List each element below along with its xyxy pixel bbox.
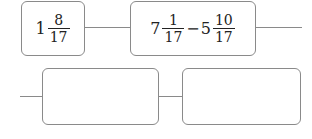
answer-box-2[interactable]: [182, 68, 301, 125]
right-denominator: 17: [213, 28, 235, 44]
left-numerator: 1: [167, 13, 180, 28]
numerator: 8: [52, 13, 65, 28]
connector-line-1: [85, 27, 130, 28]
connector-line-4: [159, 96, 182, 97]
whole-part: 1: [35, 21, 45, 37]
fraction: 8 17: [48, 13, 70, 44]
minus-operator: −: [186, 21, 199, 37]
mixed-number-1-8-17: 1 8 17: [35, 13, 70, 44]
connector-line-2: [256, 27, 302, 28]
left-whole-part: 7: [150, 21, 160, 37]
denominator: 17: [48, 28, 70, 44]
right-numerator: 10: [213, 13, 235, 28]
answer-box-1[interactable]: [42, 68, 159, 125]
right-whole-part: 5: [201, 21, 211, 37]
right-fraction: 10 17: [213, 13, 235, 44]
left-denominator: 17: [162, 28, 184, 44]
expression-box: 7 1 17 − 5 10 17: [130, 1, 256, 56]
start-value-box: 1 8 17: [21, 1, 85, 56]
connector-line-3: [20, 96, 42, 97]
subtraction-expression: 7 1 17 − 5 10 17: [150, 13, 235, 44]
left-fraction: 1 17: [162, 13, 184, 44]
